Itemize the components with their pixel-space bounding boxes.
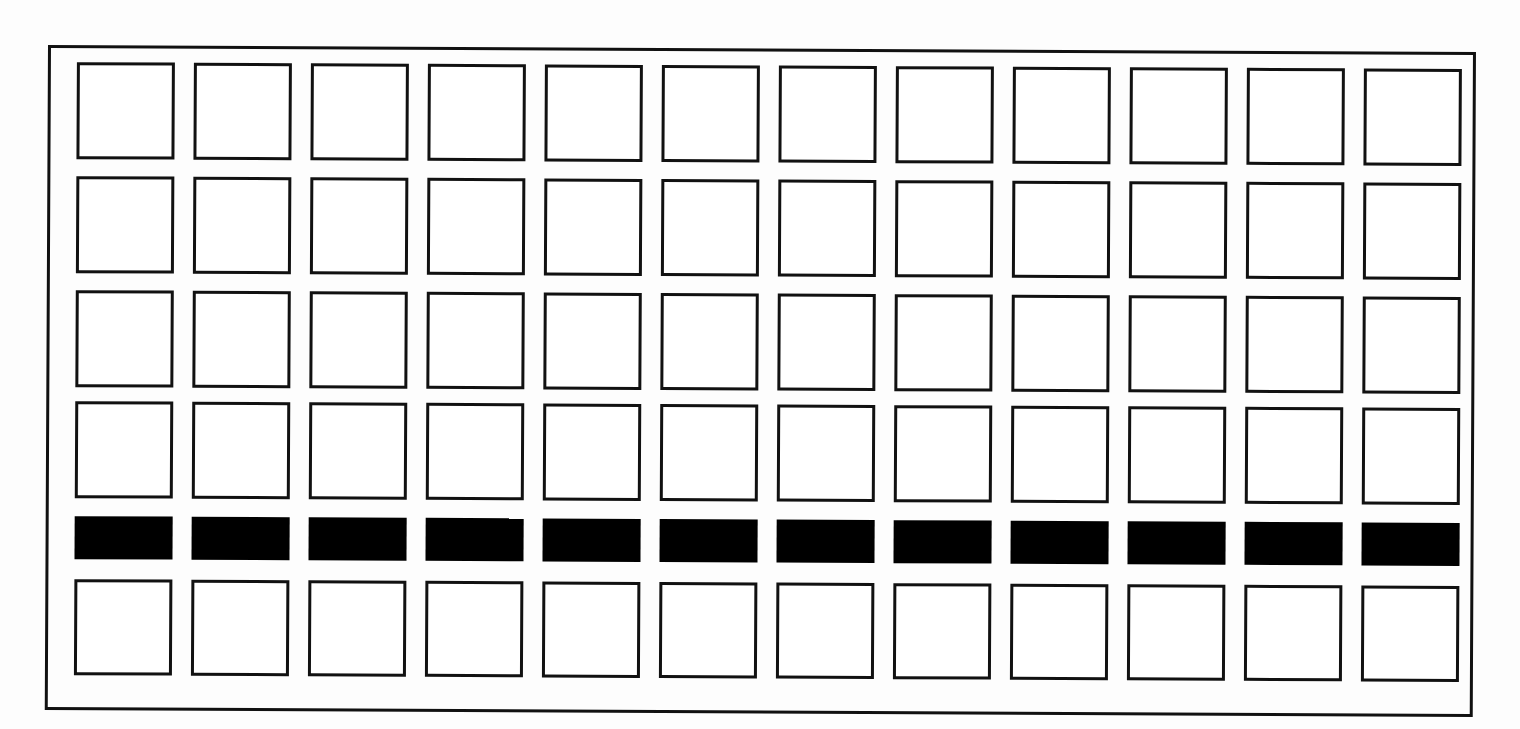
- page-canvas: [0, 0, 1520, 729]
- grid-cell-r6-c6[interactable]: [659, 582, 757, 678]
- grid-row-2: [50, 176, 1472, 183]
- grid-cell-r5-c5[interactable]: [542, 518, 640, 561]
- grid-cell-r3-c7[interactable]: [777, 294, 875, 391]
- grid-cell-r4-c4[interactable]: [426, 403, 524, 500]
- grid-cell-r3-c4[interactable]: [426, 292, 524, 389]
- grid-cell-r2-c11[interactable]: [1246, 182, 1344, 279]
- grid-cell-r3-c11[interactable]: [1245, 296, 1343, 393]
- grid-cell-r1-c5[interactable]: [544, 64, 642, 161]
- grid-cell-r3-c5[interactable]: [543, 292, 641, 389]
- grid-cell-r2-c12[interactable]: [1363, 182, 1461, 279]
- grid-cell-r1-c1[interactable]: [76, 62, 174, 159]
- grid-cell-r1-c2[interactable]: [193, 63, 291, 160]
- grid-cell-r5-c4[interactable]: [425, 518, 523, 561]
- grid-cell-r2-c5[interactable]: [544, 178, 642, 275]
- grid-row-3: [50, 290, 1472, 297]
- grid-cell-r1-c10[interactable]: [1129, 67, 1227, 164]
- grid-cell-r1-c8[interactable]: [895, 66, 993, 163]
- grid-cell-r5-c1[interactable]: [74, 516, 172, 559]
- grid-cell-r4-c7[interactable]: [777, 405, 875, 502]
- grid-cell-r4-c12[interactable]: [1362, 407, 1460, 504]
- grid-cell-r1-c3[interactable]: [310, 63, 408, 160]
- grid-cell-r2-c10[interactable]: [1129, 181, 1227, 278]
- grid-cell-r3-c12[interactable]: [1362, 296, 1460, 393]
- grid-cell-r4-c6[interactable]: [660, 404, 758, 501]
- grid-row-4: [49, 401, 1471, 408]
- grid-cell-r4-c2[interactable]: [192, 402, 290, 499]
- grid-cell-r2-c4[interactable]: [427, 178, 525, 275]
- grid-cell-r4-c9[interactable]: [1011, 406, 1109, 503]
- grid-cell-r4-c8[interactable]: [894, 405, 992, 502]
- grid-cell-r2-c3[interactable]: [310, 177, 408, 274]
- grid-row-6: [48, 579, 1470, 586]
- grid-cell-r6-c8[interactable]: [893, 583, 991, 679]
- grid-cell-r1-c12[interactable]: [1363, 68, 1461, 165]
- grid-cell-r6-c11[interactable]: [1244, 585, 1342, 681]
- grid-cell-r1-c6[interactable]: [661, 65, 759, 162]
- grid-cell-r3-c2[interactable]: [192, 291, 290, 388]
- grid-cell-r6-c2[interactable]: [191, 580, 289, 676]
- grid-cell-r6-c7[interactable]: [776, 583, 874, 679]
- grid-cell-r1-c9[interactable]: [1012, 67, 1110, 164]
- grid-cell-r2-c1[interactable]: [76, 176, 174, 273]
- grid-cell-r6-c3[interactable]: [308, 580, 406, 676]
- grid-row-1: [51, 62, 1473, 69]
- grid-cell-r6-c5[interactable]: [542, 581, 640, 677]
- grid-cell-r5-c8[interactable]: [893, 520, 991, 563]
- grid-cell-r5-c6[interactable]: [659, 519, 757, 562]
- grid-cell-r3-c8[interactable]: [894, 294, 992, 391]
- grid-cell-r4-c10[interactable]: [1128, 406, 1226, 503]
- grid-cell-r5-c3[interactable]: [308, 517, 406, 560]
- grid-cell-r5-c10[interactable]: [1127, 521, 1225, 564]
- grid-row-5: [49, 516, 1471, 523]
- grid-cell-r2-c6[interactable]: [661, 179, 759, 276]
- grid-cell-r5-c7[interactable]: [776, 520, 874, 563]
- grid-cell-r4-c11[interactable]: [1245, 407, 1343, 504]
- grid-cell-r5-c12[interactable]: [1361, 522, 1459, 565]
- grid-cell-r6-c12[interactable]: [1361, 585, 1459, 681]
- grid-cell-r2-c8[interactable]: [895, 180, 993, 277]
- grid-body: [48, 48, 1473, 714]
- grid-cell-r2-c9[interactable]: [1012, 181, 1110, 278]
- grid-cell-r3-c10[interactable]: [1128, 295, 1226, 392]
- grid-cell-r4-c3[interactable]: [309, 402, 407, 499]
- grid-cell-r3-c1[interactable]: [75, 290, 173, 387]
- grid-cell-r3-c9[interactable]: [1011, 295, 1109, 392]
- grid-cell-r6-c1[interactable]: [74, 579, 172, 675]
- grid-cell-r1-c7[interactable]: [778, 66, 876, 163]
- grid-cell-r6-c4[interactable]: [425, 581, 523, 677]
- grid-cell-r5-c9[interactable]: [1010, 521, 1108, 564]
- grid-cell-r5-c11[interactable]: [1244, 522, 1342, 565]
- grid-cell-r2-c7[interactable]: [778, 180, 876, 277]
- grid-cell-r4-c5[interactable]: [543, 403, 641, 500]
- grid-cell-r1-c11[interactable]: [1246, 68, 1344, 165]
- grid-cell-r3-c6[interactable]: [660, 293, 758, 390]
- grid-outer-frame: [45, 45, 1476, 717]
- grid-cell-r3-c3[interactable]: [309, 291, 407, 388]
- grid-cell-r6-c9[interactable]: [1010, 584, 1108, 680]
- grid-cell-r1-c4[interactable]: [427, 64, 525, 161]
- grid-cell-r6-c10[interactable]: [1127, 584, 1225, 680]
- grid-cell-r2-c2[interactable]: [193, 177, 291, 274]
- grid-cell-r4-c1[interactable]: [75, 401, 173, 498]
- grid-cell-r5-c2[interactable]: [191, 517, 289, 560]
